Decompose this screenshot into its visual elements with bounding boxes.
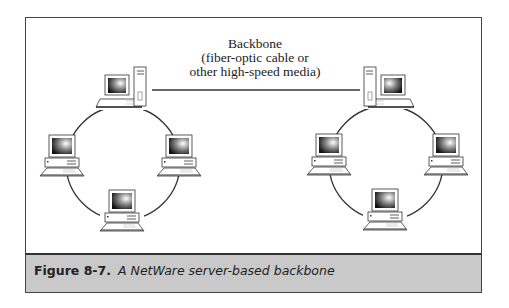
backbone-label-line1: Backbone bbox=[175, 37, 335, 51]
figure-caption-text: A NetWare server-based backbone bbox=[118, 263, 335, 278]
left-server-icon bbox=[96, 67, 152, 110]
figure-caption: Figure 8-7. A NetWare server-based backb… bbox=[25, 253, 482, 293]
left-ring-workstation-right-icon bbox=[157, 135, 201, 176]
right-ring-workstation-bottom-icon bbox=[363, 189, 407, 230]
right-ring-workstation-right-icon bbox=[424, 134, 468, 175]
backbone-label-line3: other high-speed media) bbox=[175, 65, 335, 79]
right-ring-workstation-left-icon bbox=[307, 134, 351, 175]
right-server-icon bbox=[360, 67, 414, 109]
left-ring-workstation-bottom-icon bbox=[100, 190, 144, 231]
backbone-label-line2: (fiber-optic cable or bbox=[175, 51, 335, 65]
figure-number: Figure 8-7. bbox=[34, 263, 111, 278]
left-ring-workstation-left-icon bbox=[40, 135, 84, 176]
backbone-label: Backbone (fiber-optic cable or other hig… bbox=[175, 37, 335, 79]
